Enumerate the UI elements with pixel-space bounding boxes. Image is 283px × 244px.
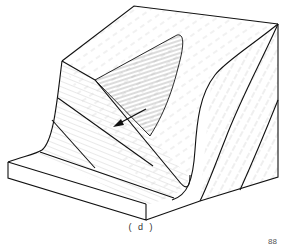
page-number: 88 <box>268 238 277 244</box>
block-diagram <box>0 0 283 244</box>
figure-caption: ( d ) <box>0 222 283 232</box>
